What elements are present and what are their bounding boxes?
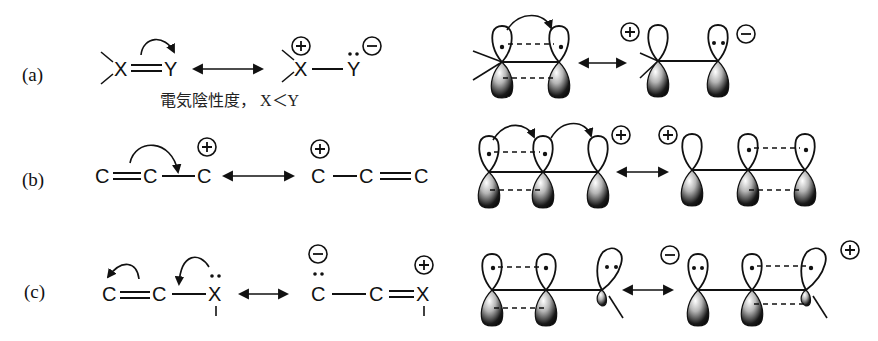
atom-c: C — [359, 165, 373, 187]
lone-pair-dot — [320, 272, 324, 276]
curved-arrow-icon — [551, 124, 591, 139]
atom-y: Y — [164, 58, 177, 80]
minus-charge-icon — [737, 25, 755, 43]
structure-c-left: C C X — [102, 257, 221, 316]
atom-y: Y — [347, 58, 360, 80]
lone-pair-dot — [348, 52, 352, 56]
plus-charge-icon — [612, 126, 630, 144]
lone-pair-dot — [217, 274, 221, 278]
atom-c: C — [311, 165, 325, 187]
lone-pair-dot — [355, 52, 359, 56]
curved-arrow-icon — [507, 16, 551, 31]
orbitals-c-right — [661, 241, 859, 326]
minus-charge-icon — [363, 37, 381, 55]
structure-b-right: C C C — [311, 140, 428, 187]
curved-arrow-icon — [493, 125, 534, 140]
atom-c: C — [197, 165, 211, 187]
orbitals-b-left — [478, 124, 630, 209]
orbitals-a-right — [621, 23, 755, 97]
plus-charge-icon — [841, 241, 859, 259]
row-b: (b) C C C C C C — [22, 124, 816, 209]
minus-charge-icon — [309, 245, 327, 263]
electronegativity-note: 電気陰性度， X＜Y — [160, 92, 300, 109]
curved-arrow-icon — [179, 257, 209, 284]
lone-pair-dot — [210, 274, 214, 278]
structure-a-left: X Y — [101, 40, 177, 84]
atom-x: X — [294, 58, 307, 80]
atom-c: C — [143, 165, 157, 187]
atom-c: C — [152, 283, 166, 305]
plus-charge-icon — [621, 23, 639, 41]
atom-c: C — [102, 283, 116, 305]
atom-x: X — [208, 283, 221, 305]
plus-charge-icon — [198, 138, 216, 156]
structure-b-left: C C C — [95, 138, 216, 187]
curved-arrow-icon — [141, 40, 174, 55]
orbitals-a-left — [473, 16, 570, 99]
plus-charge-icon — [659, 126, 677, 144]
plus-charge-icon — [311, 140, 329, 158]
row-label-a: (a) — [22, 64, 43, 86]
row-label-c: (c) — [24, 281, 45, 303]
minus-charge-icon — [661, 246, 679, 264]
curved-arrow-icon — [108, 264, 139, 279]
row-c: (c) C C X C C X — [24, 241, 859, 326]
row-a: (a) X Y X Y 電気陰性度， X＜Y — [22, 16, 755, 110]
atom-c: C — [95, 165, 109, 187]
plus-charge-icon — [292, 37, 310, 55]
lone-pair-dot — [313, 272, 317, 276]
atom-x: X — [114, 58, 127, 80]
row-label-b: (b) — [22, 169, 44, 191]
atom-x: X — [416, 283, 429, 305]
structure-c-right: C C X — [309, 245, 433, 316]
plus-charge-icon — [415, 256, 433, 274]
orbitals-b-right — [659, 126, 816, 206]
atom-c: C — [369, 283, 383, 305]
structure-a-right: X Y — [282, 37, 381, 82]
atom-c: C — [414, 165, 428, 187]
atom-c: C — [311, 283, 325, 305]
resonance-diagram: (a) X Y X Y 電気陰性度， X＜Y — [0, 0, 878, 341]
orbitals-c-left — [481, 248, 623, 326]
